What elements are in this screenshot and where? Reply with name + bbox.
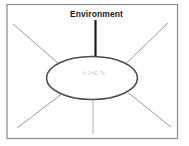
diagram-canvas: Environment 4.1HE Ts — [0, 0, 189, 146]
radiating-line-lower-right — [128, 93, 171, 128]
radiating-line-upper-right — [127, 23, 169, 63]
radiating-line-upper-left — [13, 24, 58, 63]
environment-label: Environment — [70, 9, 123, 19]
environment-diagram: Environment 4.1HE Ts — [0, 0, 189, 146]
center-ellipse-node — [47, 57, 138, 100]
radiating-line-lower-left — [17, 95, 61, 129]
ellipse-faint-text: 4.1HE Ts — [83, 70, 105, 76]
